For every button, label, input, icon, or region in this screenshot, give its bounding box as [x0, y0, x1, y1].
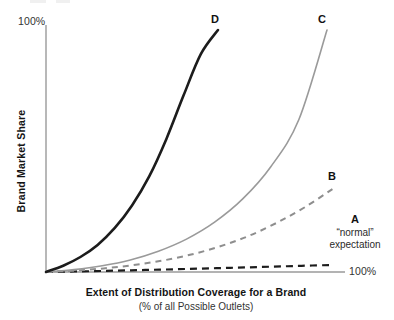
y-axis-title: Brand Market Share [15, 96, 27, 226]
curve-a-annotation: “normal” expectation [318, 227, 392, 250]
curve-label-a: A [351, 213, 359, 226]
curve-b [46, 188, 334, 272]
curve-c [46, 30, 327, 272]
chart-plot-area [0, 0, 394, 320]
curve-label-c: C [318, 13, 326, 26]
x-axis-title: Extent of Distribution Coverage for a Br… [46, 286, 346, 298]
curve-label-d: D [211, 13, 219, 26]
curve-a-annotation-line2: expectation [318, 239, 392, 251]
curve-a-annotation-line1: “normal” [336, 227, 373, 238]
chart-figure: 100% 100% Brand Market Share Extent of D… [0, 0, 394, 320]
x-axis-subtitle: (% of all Possible Outlets) [46, 301, 346, 313]
y-axis-tick-label-100: 100% [18, 15, 45, 27]
x-axis-tick-label-100: 100% [349, 265, 376, 277]
curve-label-b: B [328, 170, 336, 183]
